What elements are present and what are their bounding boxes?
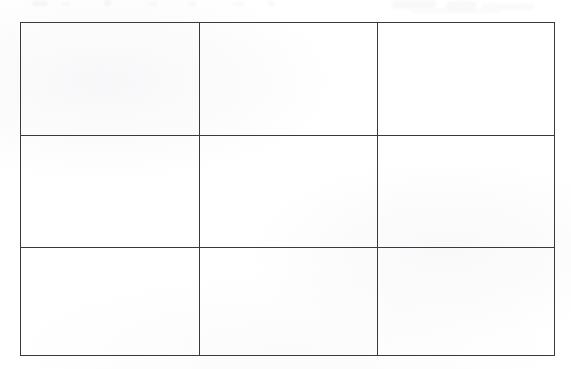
cell-text	[200, 23, 377, 135]
table-cell-r3c2[interactable]	[200, 248, 378, 356]
cell-text	[378, 248, 554, 355]
scan-smudge	[410, 9, 500, 13]
table-cell-r3c1[interactable]	[21, 248, 200, 356]
scanned-document-page	[0, 0, 571, 369]
cell-text	[21, 248, 199, 355]
scan-artifact-band	[0, 0, 571, 16]
scan-smudge	[104, 0, 111, 6]
table-cell-r2c1[interactable]	[21, 136, 200, 248]
scan-smudge	[188, 1, 196, 6]
table-row	[21, 23, 555, 136]
cell-text	[21, 136, 199, 247]
table-body	[21, 23, 555, 356]
table-cell-r3c3[interactable]	[378, 248, 555, 356]
table-row	[21, 136, 555, 248]
scan-smudge	[62, 2, 71, 6]
scan-smudge	[232, 2, 246, 6]
table-cell-r2c2[interactable]	[200, 136, 378, 248]
table-cell-r1c2[interactable]	[200, 23, 378, 136]
scan-smudge	[268, 1, 274, 6]
scan-smudge	[32, 1, 48, 6]
scan-smudge	[482, 3, 534, 10]
table-cell-r2c3[interactable]	[378, 136, 555, 248]
scan-smudge	[146, 2, 158, 6]
table-cell-r1c1[interactable]	[21, 23, 200, 136]
cell-text	[378, 136, 554, 247]
scan-smudge	[392, 0, 436, 9]
cell-text	[200, 136, 377, 247]
empty-grid-table	[20, 22, 555, 356]
cell-text	[21, 23, 199, 135]
scan-smudge	[446, 1, 476, 11]
table-cell-r1c3[interactable]	[378, 23, 555, 136]
table-row	[21, 248, 555, 356]
cell-text	[200, 248, 377, 355]
cell-text	[378, 23, 554, 135]
